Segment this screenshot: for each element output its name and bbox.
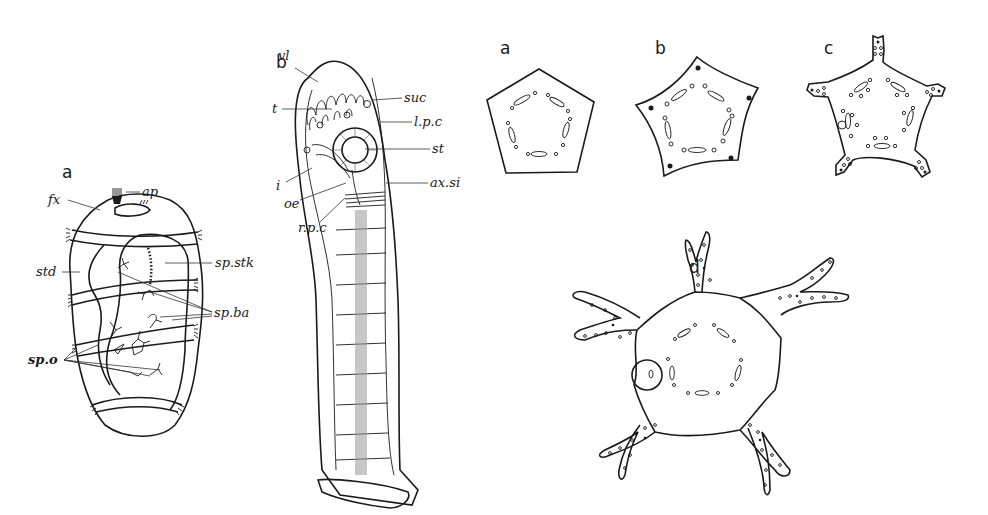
panel-letter-right-c: c — [824, 38, 833, 58]
label-fx: fx — [47, 192, 61, 207]
five-armed-stage-c: c — [807, 36, 945, 177]
panel-letter-left-a: a — [62, 162, 72, 182]
panel-letter-right-b: b — [655, 38, 666, 58]
label-t: t — [272, 101, 278, 116]
label-ax-si: ax.si — [430, 175, 460, 190]
forked-arm-stage-d: d — [573, 232, 848, 495]
label-std: std — [36, 264, 56, 279]
label-ap: ap — [142, 184, 159, 199]
label-l-p-c: l.p.c — [414, 114, 443, 129]
label-r-p-c: r.p.c — [298, 220, 327, 235]
label-suc: suc — [404, 90, 427, 105]
label-oe: oe — [284, 196, 300, 211]
label-i: i — [276, 178, 280, 193]
label-sp-o: sp.o — [28, 352, 58, 367]
label-sp-stk: sp.stk — [215, 255, 254, 270]
label-vl: vl — [278, 48, 290, 63]
label-sp-ba: sp.ba — [214, 305, 249, 320]
stalked-larva-drawing: b — [272, 48, 460, 508]
figure-canvas: a — [0, 0, 988, 515]
concave-pentagon-stage-b: b — [636, 38, 758, 176]
label-st: st — [432, 141, 445, 156]
pentagon-stage-a: a — [487, 38, 594, 173]
larva-drawing: a — [28, 162, 254, 436]
panel-letter-right-a: a — [500, 38, 510, 58]
